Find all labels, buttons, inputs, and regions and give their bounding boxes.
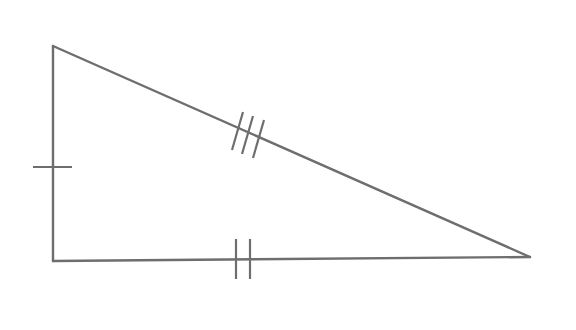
hypotenuse-triple-tick xyxy=(232,112,264,158)
triangle xyxy=(53,46,530,261)
right-triangle-diagram xyxy=(0,0,576,330)
bottom-side xyxy=(53,257,530,261)
hypotenuse xyxy=(53,46,530,257)
tick-mark xyxy=(232,112,243,150)
